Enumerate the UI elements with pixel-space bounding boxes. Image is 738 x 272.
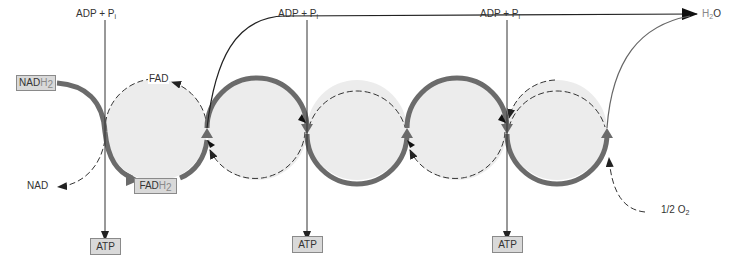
nadh2-main: NAD [19,77,40,88]
oxygen-label: 1/2 O2 [661,204,689,216]
fad-label: FAD [148,73,169,84]
nadh2-box: NADH2 [16,75,56,91]
water-output-curve [607,16,690,128]
adp-pi-text: ADP + P [480,8,518,19]
electron-transport-diagram [0,0,738,272]
oxygen-sub: 2 [685,209,689,216]
adp-pi-text: ADP + P [278,8,316,19]
nadh2-sub: 2 [47,79,53,90]
adp-pi-text: ADP + P [76,8,114,19]
fadh2-main: FAD [139,180,158,191]
pi-sub: i [316,13,318,20]
pi-sub: i [518,13,520,20]
fadh2-suffix: H [159,180,166,191]
oxygen-prefix: 1/2 O [661,204,685,215]
fadh2-box: FADH2 [134,178,177,194]
carrier-circles [105,79,607,181]
atp-box-2: ATP [292,236,323,253]
pi-sub: i [114,13,116,20]
water-label: H2O [702,8,721,20]
carrier-circle-3 [307,80,407,180]
adp-pi-label-2: ADP + Pi [278,8,318,20]
atp-box-1: ATP [90,238,121,255]
atp-box-3: ATP [492,236,523,253]
adp-pi-label-1: ADP + Pi [76,8,116,20]
fadh2-sub: 2 [166,182,172,193]
nad-label: NAD [27,180,48,191]
adp-pi-label-3: ADP + Pi [480,8,520,20]
water-suffix: O [713,8,721,19]
